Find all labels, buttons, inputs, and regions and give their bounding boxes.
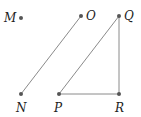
label-P: P: [53, 101, 63, 115]
segment-NO: [21, 16, 81, 94]
label-O: O: [86, 9, 96, 23]
segment-PQ: [59, 16, 119, 94]
point-N: [19, 92, 23, 96]
point-P: [57, 92, 61, 96]
label-M: M: [3, 11, 17, 25]
point-M: [19, 16, 23, 20]
point-O: [79, 14, 83, 18]
label-N: N: [15, 101, 27, 115]
point-Q: [117, 14, 121, 18]
label-R: R: [114, 101, 124, 115]
label-Q: Q: [124, 9, 134, 23]
point-R: [117, 92, 121, 96]
geometry-diagram: M O Q N P R: [0, 0, 141, 117]
